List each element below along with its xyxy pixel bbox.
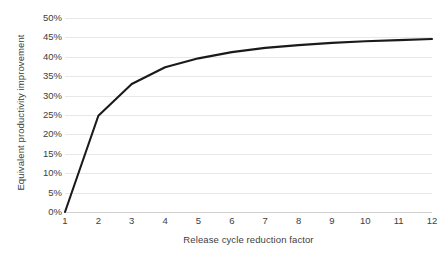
y-axis-tick-label: 20% [22, 129, 62, 139]
gridline [65, 212, 432, 213]
x-axis-tick-label: 7 [250, 215, 280, 226]
x-axis-tick-label: 5 [183, 215, 213, 226]
x-axis-tick-label: 6 [217, 215, 247, 226]
x-axis-tick-label: 12 [417, 215, 446, 226]
y-axis-tick-label: 5% [22, 188, 62, 198]
x-axis-tick-label: 11 [384, 215, 414, 226]
x-axis-tick-label: 9 [317, 215, 347, 226]
y-axis-tick-label: 40% [22, 52, 62, 62]
x-axis-tick-label: 2 [83, 215, 113, 226]
series-line-equivalent-productivity-improvement [65, 39, 432, 212]
x-axis-tick-label: 8 [284, 215, 314, 226]
y-axis-tick-label: 10% [22, 168, 62, 178]
y-axis-tick-label: 50% [22, 13, 62, 23]
x-axis-tick-label-group: 123456789101112 [65, 215, 432, 231]
x-axis-tick-label: 4 [150, 215, 180, 226]
y-axis-tick-label: 35% [22, 71, 62, 81]
series-line-group [65, 18, 432, 212]
plot-area [65, 18, 432, 212]
x-axis-tick-label: 3 [117, 215, 147, 226]
x-axis-tick-label: 1 [50, 215, 80, 226]
x-axis-tick-label: 10 [350, 215, 380, 226]
y-axis-tick-label: 30% [22, 91, 62, 101]
y-axis-tick-label: 45% [22, 32, 62, 42]
y-axis-tick-label: 15% [22, 149, 62, 159]
chart-container: Equivalent productivity improvement 0%5%… [0, 0, 446, 263]
y-axis-tick-label: 25% [22, 110, 62, 120]
x-axis-title: Release cycle reduction factor [65, 234, 432, 245]
